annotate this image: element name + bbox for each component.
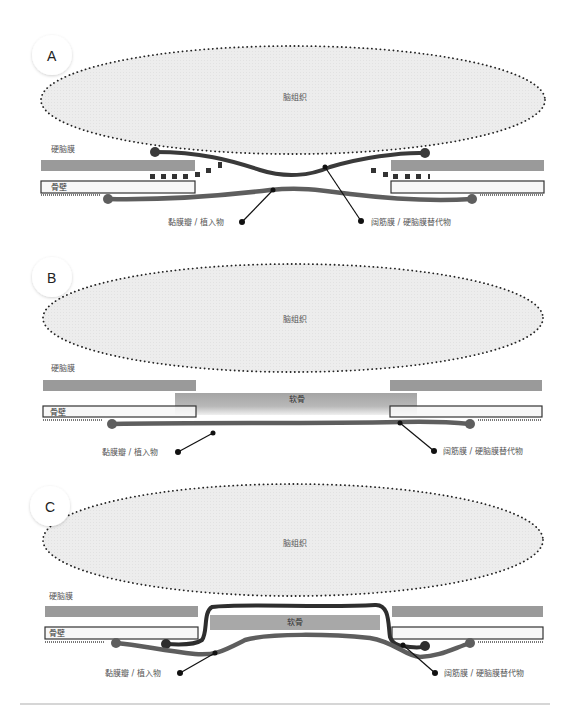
fascia-leader-end: [431, 448, 437, 454]
dura-left: [45, 606, 198, 617]
mucosal-flap: [112, 422, 470, 424]
panel-c: 脑组织 C 硬脑膜 软骨 骨壁 黏膜瓣 / 植入物 阔筋膜 / 硬脑膜替代物: [30, 484, 543, 678]
dura-left: [41, 160, 195, 171]
bone-left: [45, 627, 198, 639]
fascia-end-right: [420, 148, 430, 158]
flap-leader-dot: [213, 651, 218, 656]
bone-label: 骨壁: [50, 407, 66, 417]
dura-right: [392, 606, 543, 617]
fascia-leader: [400, 423, 434, 451]
fascia-end-right: [420, 641, 430, 651]
dura-right: [390, 380, 542, 391]
bone-label: 骨壁: [49, 628, 65, 638]
brain-tissue-label: 脑组织: [283, 538, 307, 548]
flap-leader-end: [239, 219, 245, 225]
dura-right: [391, 160, 544, 171]
bone-right: [391, 181, 544, 193]
dura-label: 硬脑膜: [49, 591, 73, 601]
fascia-graft: [155, 152, 425, 175]
brain-tissue-label: 脑组织: [283, 92, 307, 102]
fascia-end-left: [150, 147, 160, 157]
fascia-label: 阔筋膜 / 硬脑膜替代物: [371, 217, 451, 227]
cartilage-label: 软骨: [287, 617, 303, 627]
flap-leader-dot: [271, 188, 276, 193]
flap-end-right: [467, 194, 477, 204]
bone-right: [392, 627, 543, 639]
fascia-label: 阔筋膜 / 硬脑膜替代物: [444, 668, 524, 678]
flap-label: 黏膜瓣 / 植入物: [102, 447, 158, 457]
flap-leader-dot: [211, 431, 216, 436]
flap-leader-end: [175, 449, 181, 455]
cartilage-label: 软骨: [289, 394, 305, 404]
dura-left: [43, 380, 196, 391]
panel-letter: C: [45, 499, 55, 515]
flap-end-right: [465, 638, 475, 648]
flap-leader-end: [177, 670, 183, 676]
dura-label: 硬脑膜: [51, 363, 75, 373]
fascia-label: 阔筋膜 / 硬脑膜替代物: [443, 446, 523, 456]
panel-a: 脑组织 A 硬脑膜 骨壁: [32, 35, 545, 227]
fascia-leader-end: [358, 218, 364, 224]
panel-letter: A: [47, 48, 57, 64]
dura-label: 硬脑膜: [51, 144, 75, 154]
flap-end-left: [103, 194, 113, 204]
fascia-leader-dot: [398, 421, 403, 426]
flap-end-right: [465, 419, 475, 429]
fascia-leader-end: [432, 670, 438, 676]
panel-letter: B: [47, 270, 56, 286]
flap-end-left: [107, 419, 117, 429]
panel-b: 脑组织 B 硬脑膜 软骨 骨壁 黏膜瓣 / 植入物 阔筋膜 / 硬脑膜替代物: [32, 257, 543, 457]
figure-canvas: 脑组织 A 硬脑膜 骨壁: [0, 0, 572, 707]
flap-label: 黏膜瓣 / 植入物: [105, 668, 161, 678]
flap-label: 黏膜瓣 / 植入物: [168, 217, 224, 227]
bone-right: [390, 406, 542, 417]
flap-leader: [178, 433, 213, 452]
bone-label: 骨壁: [51, 182, 67, 192]
caption-cutoff: [20, 703, 550, 705]
fascia-leader-dot: [323, 165, 328, 170]
fascia-leader-dot: [401, 643, 406, 648]
flap-end-left: [111, 638, 121, 648]
brain-tissue-label: 脑组织: [283, 314, 307, 324]
